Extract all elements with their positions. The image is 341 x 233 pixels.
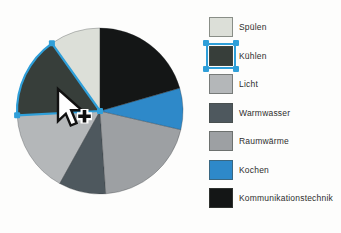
selection-handle[interactable] xyxy=(233,66,239,72)
legend-label: Kühlen xyxy=(239,51,267,61)
legend-item-spuelen[interactable]: Spülen xyxy=(209,17,333,37)
chart-canvas: Spülen Kühlen Licht Warmwasser Raumwärme xyxy=(0,0,341,233)
legend-item-kuehlen[interactable]: Kühlen xyxy=(209,46,333,66)
legend-item-licht[interactable]: Licht xyxy=(209,74,333,94)
legend-swatch-kochen[interactable] xyxy=(209,160,233,180)
legend-item-raumwaerme[interactable]: Raumwärme xyxy=(209,131,333,151)
legend-swatch-raumwaerme[interactable] xyxy=(209,131,233,151)
legend-swatch-kommunikationstechnik[interactable] xyxy=(209,188,233,208)
selection-handle[interactable] xyxy=(203,66,209,72)
selection-handle[interactable] xyxy=(203,40,209,46)
legend-label: Kochen xyxy=(239,165,269,175)
legend-item-warmwasser[interactable]: Warmwasser xyxy=(209,103,333,123)
legend-label: Kommunikationstechnik xyxy=(239,193,333,203)
legend-item-kommunikationstechnik[interactable]: Kommunikationstechnik xyxy=(209,188,333,208)
legend-label: Spülen xyxy=(239,22,267,32)
legend-label: Warmwasser xyxy=(239,108,290,118)
pie-selection-handle[interactable] xyxy=(97,108,103,114)
selection-handle[interactable] xyxy=(233,40,239,46)
legend: Spülen Kühlen Licht Warmwasser Raumwärme xyxy=(209,17,333,217)
legend-swatch-kuehlen-selected[interactable] xyxy=(209,46,233,66)
pie-selection-handle[interactable] xyxy=(14,112,20,118)
legend-item-kochen[interactable]: Kochen xyxy=(209,160,333,180)
selection-frame xyxy=(206,43,236,69)
legend-label: Licht xyxy=(239,79,258,89)
legend-swatch-licht[interactable] xyxy=(209,74,233,94)
legend-swatch-warmwasser[interactable] xyxy=(209,103,233,123)
pie-selection-handle[interactable] xyxy=(49,40,55,46)
legend-swatch-spuelen[interactable] xyxy=(209,17,233,37)
legend-label: Raumwärme xyxy=(239,136,289,146)
